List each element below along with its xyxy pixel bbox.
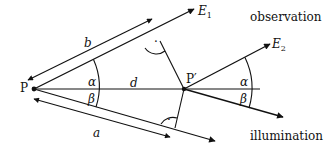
label-p-prime: P′ — [186, 73, 197, 85]
right-angle-dot-top: · — [154, 36, 158, 48]
label-alpha-left: α — [88, 76, 96, 88]
right-angle-dot-bottom: · — [167, 114, 171, 126]
label-b: b — [84, 37, 92, 49]
label-illumination: illumination — [250, 130, 323, 142]
geometry-diagram: P P′ E1 E2 observation illumination b a … — [0, 0, 333, 152]
perpendicular-top — [160, 41, 184, 89]
label-observation: observation — [250, 11, 321, 23]
illumination-ray — [34, 89, 215, 141]
point-p-prime — [182, 87, 186, 91]
label-e1: E1 — [198, 5, 212, 20]
label-d: d — [130, 77, 138, 89]
point-p — [32, 87, 37, 92]
label-p: P — [20, 82, 28, 94]
lower-right-ray — [184, 89, 283, 117]
label-beta-right: β — [240, 93, 247, 105]
observation-ray — [34, 9, 194, 89]
label-e2: E2 — [272, 38, 286, 53]
label-beta-left: β — [88, 93, 95, 105]
a-dimension-arrow — [34, 99, 170, 137]
perpendicular-bottom — [175, 89, 184, 128]
label-alpha-right: α — [240, 76, 248, 88]
label-a: a — [93, 127, 100, 139]
